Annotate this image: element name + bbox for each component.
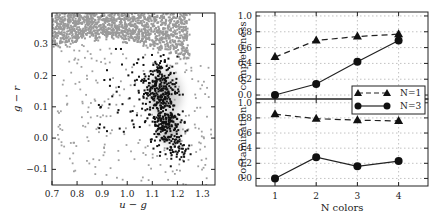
svg-text:0.2: 0.2 [34, 71, 48, 81]
svg-text:2: 2 [313, 191, 319, 201]
legend: N=1 N=3 [352, 86, 425, 114]
circle-marker-icon [271, 174, 279, 182]
triangle-marker-icon [271, 109, 280, 117]
svg-text:0.8: 0.8 [70, 189, 85, 199]
svg-text:1.3: 1.3 [195, 189, 210, 199]
svg-text:1.1: 1.1 [145, 189, 159, 199]
circle-marker-icon [395, 157, 403, 165]
svg-text:N=3: N=3 [400, 101, 421, 111]
triangle-marker-icon [353, 32, 362, 40]
svg-text:N=1: N=1 [400, 88, 421, 98]
svg-text:1.2: 1.2 [170, 189, 184, 199]
svg-text:4: 4 [396, 191, 402, 201]
scatter-ylabel: g − r [11, 85, 22, 112]
svg-text:1.0: 1.0 [238, 11, 253, 21]
svg-text:−0.1: −0.1 [26, 164, 48, 174]
circle-marker-icon [353, 58, 361, 66]
triangle-marker-icon [312, 35, 321, 43]
svg-text:0.0: 0.0 [34, 133, 49, 143]
contamination-ylabel: contamination [237, 106, 248, 179]
circle-marker-icon [355, 103, 362, 110]
circle-marker-icon [312, 80, 320, 88]
contamination-xlabel: N colors [321, 202, 364, 213]
figure: 0.70.80.91.01.11.21.3−0.10.00.10.20.3 u … [0, 0, 433, 223]
completeness-ylabel: completeness [237, 21, 248, 90]
triangle-marker-icon [353, 115, 362, 123]
svg-text:0.1: 0.1 [34, 102, 48, 112]
svg-text:1: 1 [272, 191, 278, 201]
svg-text:0.9: 0.9 [95, 189, 110, 199]
triangle-marker-icon [394, 29, 403, 37]
circle-marker-icon [271, 91, 279, 99]
svg-text:0.7: 0.7 [45, 189, 60, 199]
svg-text:3: 3 [355, 191, 361, 201]
circle-marker-icon [312, 153, 320, 161]
circle-marker-icon [353, 162, 361, 170]
contamination-panel: 0.00.20.40.60.81.01234 contamination N c… [237, 98, 428, 213]
svg-text:1.0: 1.0 [120, 189, 135, 199]
triangle-marker-icon [394, 116, 403, 124]
scatter-panel: 0.70.80.91.01.11.21.3−0.10.00.10.20.3 u … [11, 9, 215, 210]
circle-marker-icon [395, 36, 403, 44]
svg-text:1.0: 1.0 [238, 98, 253, 108]
scatter-xlabel: u − g [119, 199, 147, 210]
circle-marker-icon [384, 103, 391, 110]
svg-text:0.3: 0.3 [34, 39, 49, 49]
